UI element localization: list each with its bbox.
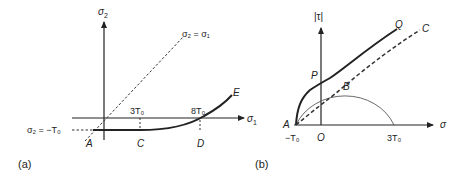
diagonal-label: σ₂ = σ₁: [182, 29, 210, 39]
point-a-label: A: [85, 138, 93, 149]
point-c-label-b: C: [422, 23, 430, 34]
panel-b: |τ| σ −T₀ O 3T₀ A P B Q C (b): [255, 11, 447, 170]
point-e-label: E: [233, 87, 240, 98]
point-c-label: C: [137, 138, 145, 149]
point-q-label: Q: [395, 19, 403, 30]
tick-3t-label: 3T₀: [130, 106, 145, 116]
origin-label: O: [317, 132, 325, 143]
mohr-semicircle: [296, 96, 394, 125]
point-a-label-b: A: [282, 119, 290, 130]
sigma-axis-label: σ: [440, 119, 447, 130]
diagonal-line: [85, 36, 184, 141]
point-b-label: B: [343, 81, 350, 92]
panel-a-caption: (a): [18, 158, 31, 170]
sigma1-axis-label: σ1: [247, 113, 257, 126]
tick-3t-label-b: 3T₀: [387, 133, 402, 143]
failure-curve: [93, 95, 232, 130]
sigma2-axis-label: σ2: [98, 6, 108, 19]
tick-8t-label: 8T₀: [191, 106, 206, 116]
panel-b-caption: (b): [255, 158, 268, 170]
point-p-label: P: [311, 70, 318, 81]
point-d-label: D: [197, 138, 204, 149]
tick-neg-t-label: −T₀: [285, 133, 300, 143]
figure: σ2 σ1 σ₂ = σ₁ σ₂ = −T₀ 3T₀ 8T₀ A C D E (…: [0, 0, 468, 179]
tau-axis-label: |τ|: [314, 11, 323, 22]
panel-a: σ2 σ1 σ₂ = σ₁ σ₂ = −T₀ 3T₀ 8T₀ A C D E (…: [18, 6, 257, 170]
offset-label: σ₂ = −T₀: [27, 125, 61, 135]
